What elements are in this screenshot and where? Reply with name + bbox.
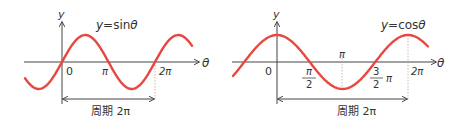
cosine-equation: y=cosθ bbox=[380, 18, 426, 32]
sine-graph: y y=sinθ θ 0 π 2π 周期 2π bbox=[24, 8, 210, 118]
cosine-y-label: y bbox=[272, 8, 280, 21]
sine-tick-2pi: 2π bbox=[159, 66, 172, 77]
cosine-graph: y y=cosθ θ 0 π 2 π 3 2 π 2π 周期 2π bbox=[232, 8, 445, 118]
sine-tick-pi: π bbox=[102, 66, 109, 77]
trig-graphs-figure: y y=sinθ θ 0 π 2π 周期 2π y y=cosθ θ 0 π 2… bbox=[0, 0, 464, 122]
cosine-tick-pi-half-den: 2 bbox=[306, 79, 312, 90]
sine-equation: y=sinθ bbox=[95, 18, 138, 32]
sine-period-label: 周期 2π bbox=[91, 105, 130, 118]
cosine-theta-label: θ bbox=[437, 56, 445, 70]
cosine-tick-pi-half-num: π bbox=[306, 66, 313, 77]
sine-theta-label: θ bbox=[202, 56, 210, 70]
cosine-origin-label: 0 bbox=[265, 65, 272, 78]
cosine-tick-3pi-half-num: 3 bbox=[373, 66, 379, 77]
sine-origin-label: 0 bbox=[66, 65, 73, 78]
cosine-tick-pi: π bbox=[339, 49, 346, 60]
cosine-period-label: 周期 2π bbox=[337, 105, 376, 118]
cosine-tick-2pi: 2π bbox=[411, 66, 424, 77]
cosine-tick-3pi-half-suffix: π bbox=[386, 73, 393, 84]
cosine-tick-3pi-half-den: 2 bbox=[373, 79, 379, 90]
sine-y-label: y bbox=[57, 8, 65, 21]
